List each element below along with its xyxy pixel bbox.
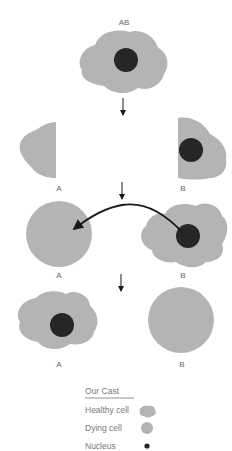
stage-3-label-b: B <box>180 271 185 280</box>
dying-cell-icon <box>141 422 153 434</box>
nucleus-b-moving <box>176 224 200 248</box>
half-cell-a <box>20 122 56 178</box>
stage-4-label-a: A <box>56 360 62 369</box>
nucleus-b <box>179 138 203 162</box>
stage-2-label-b: B <box>180 184 185 193</box>
healthy-cell-icon <box>140 405 156 417</box>
legend-label-dying-cell: Dying cell <box>85 423 122 433</box>
dying-cell-b <box>148 287 214 353</box>
stage-3-label-a: A <box>56 271 62 280</box>
legend: Our Cast Healthy cell Dying cell Nucleus <box>85 386 156 451</box>
stage-2-label-a: A <box>56 184 62 193</box>
stage-4-label-b: B <box>179 360 184 369</box>
legend-label-nucleus: Nucleus <box>85 441 116 451</box>
stage-1-label-ab: AB <box>119 18 130 27</box>
legend-label-healthy-cell: Healthy cell <box>85 405 129 415</box>
nucleus-a <box>50 313 74 337</box>
cell-diagram: AB A B A B A B Our Cast Healthy cell Dyi… <box>0 0 232 451</box>
nucleus-ab <box>114 48 138 72</box>
nucleus-icon <box>144 443 149 448</box>
dying-cell-a <box>26 201 92 267</box>
legend-title: Our Cast <box>85 386 120 396</box>
